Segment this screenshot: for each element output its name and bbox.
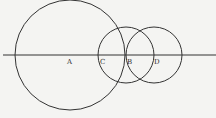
point-label-c: C [100, 58, 105, 66]
point-label-b: B [127, 58, 132, 66]
point-label-a: A [66, 58, 73, 66]
geometry-diagram: ACBD [0, 0, 216, 118]
point-label-d: D [154, 58, 160, 66]
